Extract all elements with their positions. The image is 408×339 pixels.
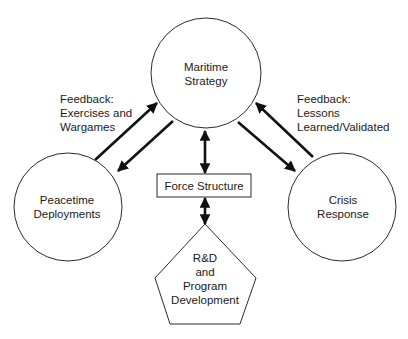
maritime-strategy-label-line2: Strategy bbox=[185, 75, 228, 87]
rnd-label-line2: and bbox=[195, 266, 214, 278]
left-feedback-line1: Feedback: bbox=[60, 93, 114, 105]
arrow-strategy-to-peacetime bbox=[118, 121, 173, 171]
crisis-response-label-line2: Response bbox=[317, 208, 369, 220]
node-force-structure: Force Structure bbox=[157, 174, 251, 197]
rnd-label-line4: Development bbox=[171, 294, 240, 306]
label-left-feedback: Feedback: Exercises and Wargames bbox=[60, 93, 132, 133]
left-feedback-line2: Exercises and bbox=[60, 107, 132, 119]
crisis-response-label-line1: Crisis bbox=[329, 194, 358, 206]
right-feedback-line2: Lessons bbox=[297, 107, 340, 119]
force-structure-label: Force Structure bbox=[164, 180, 243, 192]
rnd-label-line3: Program bbox=[183, 280, 227, 292]
peacetime-deployments-label-line1: Peacetime bbox=[40, 194, 94, 206]
node-peacetime-deployments: Peacetime Deployments bbox=[14, 153, 122, 261]
label-right-feedback: Feedback: Lessons Learned/Validated bbox=[297, 93, 390, 133]
node-crisis-response: Crisis Response bbox=[288, 153, 396, 261]
maritime-strategy-circle bbox=[151, 18, 261, 128]
left-feedback-line3: Wargames bbox=[60, 121, 115, 133]
right-feedback-line1: Feedback: bbox=[297, 93, 351, 105]
right-feedback-line3: Learned/Validated bbox=[297, 121, 390, 133]
node-maritime-strategy: Maritime Strategy bbox=[151, 18, 261, 128]
maritime-strategy-label-line1: Maritime bbox=[184, 61, 228, 73]
arrow-strategy-to-crisis bbox=[238, 122, 295, 171]
maritime-strategy-diagram: Maritime Strategy Peacetime Deployments … bbox=[0, 0, 408, 339]
rnd-label-line1: R&D bbox=[193, 252, 217, 264]
peacetime-deployments-circle bbox=[14, 153, 122, 261]
crisis-response-circle bbox=[288, 153, 396, 261]
peacetime-deployments-label-line2: Deployments bbox=[33, 208, 100, 220]
node-rnd-program-development: R&D and Program Development bbox=[155, 224, 256, 324]
